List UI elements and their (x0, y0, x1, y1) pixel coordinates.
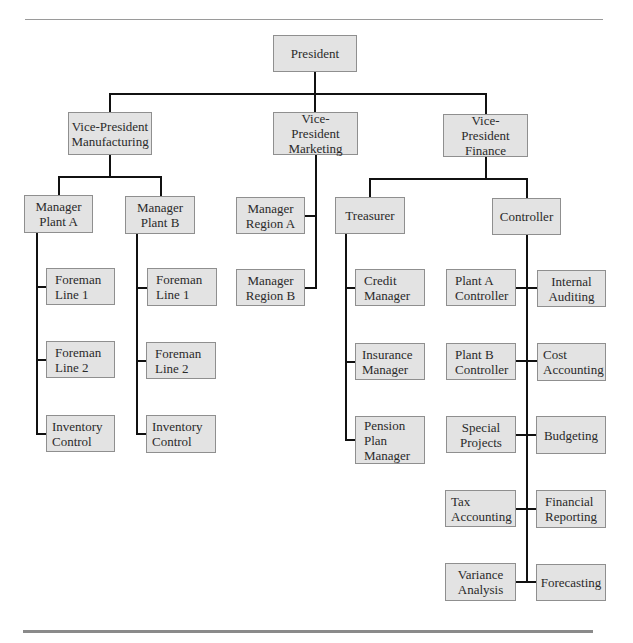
node-manager-region-a: Manager Region A (236, 197, 305, 234)
node-label: Inventory Control (152, 419, 203, 449)
node-plant-a-foreman-line-2: Foreman Line 2 (46, 341, 115, 378)
node-plant-a-foreman-line-1: Foreman Line 1 (46, 268, 115, 305)
node-variance-analysis: Variance Analysis (445, 563, 516, 601)
node-label: Plant A Controller (455, 273, 508, 303)
node-label: Special Projects (460, 420, 502, 450)
node-label: Plant B Controller (455, 347, 508, 377)
node-president: President (273, 35, 357, 72)
node-label: Vice-President Finance (448, 113, 523, 158)
node-label: Pension Plan Manager (364, 418, 410, 463)
connector-lines (0, 0, 633, 643)
node-label: Manager Region B (246, 273, 295, 303)
node-forecasting: Forecasting (536, 564, 606, 601)
node-label: Budgeting (544, 428, 598, 443)
node-internal-auditing: Internal Auditing (537, 270, 606, 307)
node-insurance-manager: Insurance Manager (355, 343, 425, 380)
node-label: Financial Reporting (545, 494, 597, 524)
node-plant-a-controller: Plant A Controller (446, 269, 516, 306)
node-pension-plan-manager: Pension Plan Manager (355, 416, 425, 464)
node-label: Manager Plant B (137, 200, 183, 230)
node-credit-manager: Credit Manager (355, 269, 425, 306)
node-vp-manufacturing: Vice-President Manufacturing (68, 112, 152, 155)
node-financial-reporting: Financial Reporting (536, 490, 606, 528)
node-label: Manager Plant A (35, 199, 81, 229)
node-tax-accounting: Tax Accounting (445, 490, 516, 527)
node-label: Foreman Line 1 (55, 272, 101, 302)
node-cost-accounting: Cost Accounting (537, 343, 606, 381)
node-controller: Controller (492, 198, 561, 235)
node-label: Manager Region A (246, 201, 295, 231)
node-vp-finance: Vice-President Finance (443, 114, 528, 157)
node-plant-b-controller: Plant B Controller (446, 343, 516, 380)
node-plant-a-inventory-control: Inventory Control (46, 415, 115, 452)
node-vp-marketing: Vice-President Marketing (273, 112, 358, 155)
node-treasurer: Treasurer (335, 197, 405, 234)
node-manager-region-b: Manager Region B (236, 269, 305, 306)
node-label: Internal Auditing (548, 274, 594, 304)
node-plant-b-foreman-line-2: Foreman Line 2 (146, 342, 216, 379)
node-label: Controller (500, 209, 553, 224)
node-budgeting: Budgeting (536, 416, 606, 454)
node-label: Tax Accounting (451, 494, 512, 524)
node-label: Forecasting (541, 575, 602, 590)
node-manager-plant-a: Manager Plant A (24, 195, 93, 233)
node-label: Vice-President Marketing (278, 111, 353, 156)
node-label: Vice-President Manufacturing (71, 119, 148, 149)
node-label: Inventory Control (52, 419, 103, 449)
node-plant-b-foreman-line-1: Foreman Line 1 (147, 268, 217, 306)
node-manager-plant-b: Manager Plant B (125, 196, 195, 234)
node-label: Treasurer (345, 208, 394, 223)
node-label: Foreman Line 2 (155, 346, 201, 376)
node-label: President (291, 46, 339, 61)
node-label: Cost Accounting (543, 347, 604, 377)
node-label: Insurance Manager (362, 347, 413, 377)
node-plant-b-inventory-control: Inventory Control (146, 415, 216, 453)
node-label: Variance Analysis (458, 567, 504, 597)
node-special-projects: Special Projects (446, 416, 516, 453)
node-label: Foreman Line 2 (55, 345, 101, 375)
node-label: Foreman Line 1 (156, 272, 202, 302)
node-label: Credit Manager (364, 273, 410, 303)
